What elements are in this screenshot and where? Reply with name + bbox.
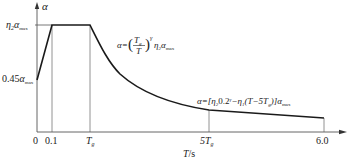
svg-text:γ: γ xyxy=(150,35,153,41)
tick-5tg: 5Tg xyxy=(200,135,214,147)
tick-0-1: 0.1 xyxy=(45,135,58,146)
y-axis-arrow-icon xyxy=(35,2,39,9)
tick-6-0: 6.0 xyxy=(316,135,329,146)
y-axis-label: α xyxy=(42,0,48,12)
svg-text:T: T xyxy=(136,46,142,56)
start-value-label: 0.45αmax xyxy=(2,73,34,85)
paren-open: ( xyxy=(128,36,133,53)
plateau-label: η2αmax xyxy=(6,19,28,31)
tick-tg: Tg xyxy=(86,135,95,147)
tick-0: 0 xyxy=(33,135,38,146)
x-axis-label: T/s xyxy=(183,148,195,159)
svg-text:η2αmax: η2αmax xyxy=(154,40,175,51)
svg-text:α=: α= xyxy=(117,40,128,50)
formula-curve: α= ( Tg T ) γ η2αmax xyxy=(117,35,175,56)
x-axis-arrow-icon xyxy=(339,130,347,134)
svg-text:Tg: Tg xyxy=(134,35,142,46)
response-spectrum-diagram: α η2αmax 0.45αmax 0 0.1 Tg 5Tg 6.0 T/s α… xyxy=(0,0,350,159)
formula-linear: α=[η20.2γ−η1(T−5Tg)]αmax xyxy=(197,96,291,107)
